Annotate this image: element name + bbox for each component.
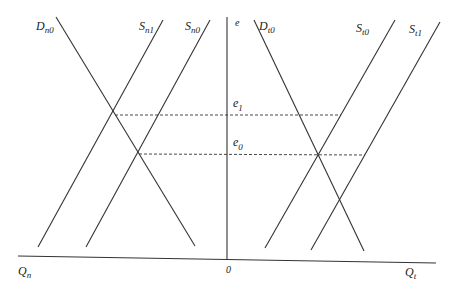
label-q-t: Qt <box>405 265 417 281</box>
label-s-n0: Sn0 <box>185 19 201 35</box>
label-e0: e0 <box>233 135 243 152</box>
curve-d-t0 <box>254 20 364 251</box>
curve-s-t0 <box>265 20 395 248</box>
label-d-n0: Dn0 <box>35 19 54 35</box>
curve-s-n0 <box>86 20 210 247</box>
label-e-axis: e <box>235 17 240 28</box>
label-s-t1: St1 <box>409 22 422 38</box>
curve-s-t1 <box>311 22 440 250</box>
label-s-n1: Sn1 <box>139 19 154 35</box>
label-s-t0: St0 <box>356 21 370 37</box>
curve-d-n0 <box>56 17 195 246</box>
curve-lines <box>38 17 440 251</box>
market-equilibrium-diagram: Dn0 Sn1 Sn0 Dt0 St0 St1 e e1 e0 0 Qn Qt <box>0 0 456 293</box>
label-e1: e1 <box>233 96 243 113</box>
label-d-t0: Dt0 <box>258 19 275 35</box>
label-origin: 0 <box>226 264 231 275</box>
dashed-line-e0 <box>139 154 365 155</box>
curve-s-n1 <box>38 20 163 247</box>
label-q-n: Qn <box>18 264 32 280</box>
